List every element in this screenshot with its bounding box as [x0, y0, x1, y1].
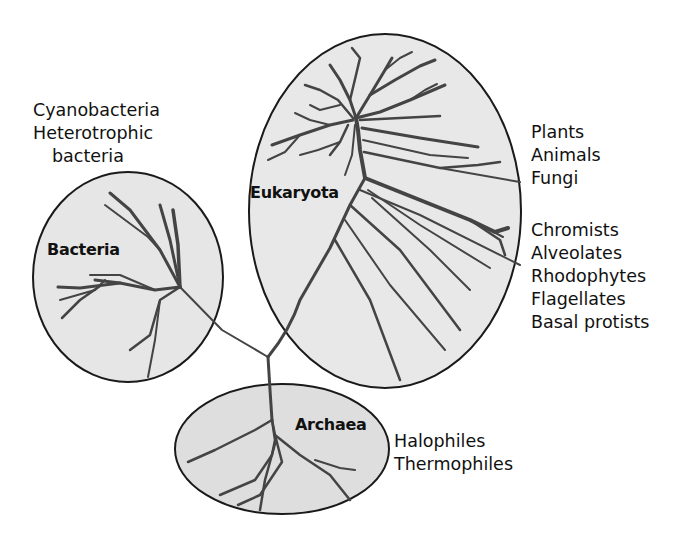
example-label: Plants	[531, 121, 601, 144]
archaea-domain-label: Archaea	[295, 415, 367, 434]
example-label: Rhodophytes	[531, 265, 649, 288]
example-label: Alveolates	[531, 242, 649, 265]
archaea-examples: Halophiles Thermophiles	[394, 430, 513, 476]
bacteria-domain-label: Bacteria	[47, 240, 120, 259]
eukaryota-examples-group1: Plants Animals Fungi	[531, 121, 601, 190]
example-label: Basal protists	[531, 311, 649, 334]
example-label: Flagellates	[531, 288, 649, 311]
eukaryota-domain-label: Eukaryota	[250, 183, 339, 202]
bacteria-circle	[33, 172, 223, 382]
example-label: Heterotrophic	[33, 122, 160, 145]
example-label: Thermophiles	[394, 453, 513, 476]
example-label: bacteria	[33, 145, 160, 168]
bacteria-examples: Cyanobacteria Heterotrophic bacteria	[33, 99, 160, 168]
archaea-ellipse	[175, 384, 389, 514]
example-label: Fungi	[531, 167, 601, 190]
eukaryota-examples-group2: Chromists Alveolates Rhodophytes Flagell…	[531, 219, 649, 334]
example-label: Animals	[531, 144, 601, 167]
example-label: Cyanobacteria	[33, 99, 160, 122]
example-label: Halophiles	[394, 430, 513, 453]
example-label: Chromists	[531, 219, 649, 242]
